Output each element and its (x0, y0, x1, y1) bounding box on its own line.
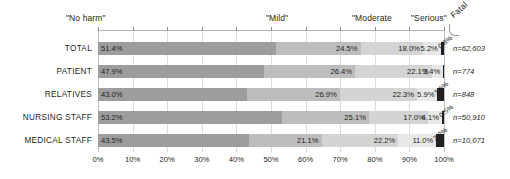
x-axis-tick-label: 20% (160, 155, 175, 164)
bar-segment: 22.2% (322, 134, 399, 147)
bar-segment: 18.0% (361, 42, 423, 55)
row-label-patient: PATIENT (0, 65, 92, 78)
bar-value-label: 22.2% (374, 134, 396, 147)
sample-size-label: n=62,603 (453, 42, 485, 55)
sample-size-label: n=10,071 (453, 134, 485, 147)
bar-segment: 25.1% (282, 111, 369, 124)
bar-value-label: 18.0% (398, 42, 420, 55)
bar-segment: 22.1% (355, 65, 431, 78)
x-axis-tick (202, 27, 203, 31)
stacked-bar: 53.2%25.1%17.0%4.1%0.5% (98, 111, 444, 124)
bar-value-label: 51.4% (101, 42, 123, 55)
x-axis-tick-label: 90% (402, 155, 417, 164)
x-axis-tick-label: 70% (333, 155, 348, 164)
legend-label-moderate: "Moderate (352, 13, 392, 23)
chart-row: MEDICAL STAFF43.5%21.1%22.2%11.0%2.2%n=1… (98, 134, 444, 147)
x-axis-tick-label: 60% (298, 155, 313, 164)
bar-value-label: 11.0% (412, 134, 433, 147)
bar-segment: 3.4% (432, 65, 444, 78)
bar-value-label: 53.2% (101, 111, 123, 124)
sample-size-label: n=50,910 (453, 111, 485, 124)
bar-value-label: 26.9% (315, 88, 337, 101)
x-axis-tick-label: 50% (263, 155, 278, 164)
x-axis-tick (236, 27, 237, 31)
x-axis-tick-label: 30% (194, 155, 209, 164)
bar-segment: 0.8% (441, 42, 444, 55)
x-axis-tick-label: 10% (125, 155, 140, 164)
bar-segment: 22.3% (340, 88, 417, 101)
bar-value-label: 24.5% (336, 42, 358, 55)
row-label-total: TOTAL (0, 42, 92, 55)
bar-segment: 51.4% (98, 42, 276, 55)
bar-value-label: 3.4% (423, 65, 440, 78)
row-label-medical-staff: MEDICAL STAFF (0, 134, 92, 147)
chart-row: PATIENT47.9%26.4%22.1%3.4%n=774 (98, 65, 444, 78)
bar-value-label: 21.1% (297, 134, 319, 147)
stacked-bar: 51.4%24.5%18.0%5.2%0.8% (98, 42, 444, 55)
legend-label-serious: "Serious" (411, 13, 447, 23)
legend-label-fatal: Fatal (448, 0, 469, 20)
legend-label-no-harm: "No harm" (66, 13, 106, 23)
chart-row: TOTAL51.4%24.5%18.0%5.2%0.8%n=62,603 (98, 42, 444, 55)
stacked-bar-chart: "No harm" "Mild" "Moderate "Serious" Fat… (0, 0, 510, 179)
bar-segment: 21.1% (249, 134, 322, 147)
x-axis-tick (167, 27, 168, 31)
bar-segment: 26.4% (264, 65, 355, 78)
x-axis-tick (375, 27, 376, 31)
row-label-relatives: RELATIVES (0, 88, 92, 101)
x-axis-labels: 0%10%20%30%40%50%60%70%80%90%100% (98, 155, 444, 169)
x-axis-tick (98, 27, 99, 31)
x-axis-tick-label: 100% (434, 155, 453, 164)
bar-segment: 43.0% (98, 88, 247, 101)
bar-segment: 53.2% (98, 111, 282, 124)
x-axis-tick (409, 27, 410, 31)
x-axis-tick (340, 27, 341, 31)
bar-segment (443, 65, 444, 78)
bar-segment: 43.5% (98, 134, 249, 147)
bar-segment: 1.6% (437, 88, 444, 101)
x-axis-tick-label: 40% (229, 155, 244, 164)
stacked-bar: 47.9%26.4%22.1%3.4% (98, 65, 444, 78)
row-label-nursing-staff: NURSING STAFF (0, 111, 92, 124)
plot-area: TOTAL51.4%24.5%18.0%5.2%0.8%n=62,603PATI… (98, 30, 444, 152)
bar-value-label: 43.5% (101, 134, 123, 147)
chart-row: RELATIVES43.0%26.9%22.3%5.9%1.6%n=848 (98, 88, 444, 101)
bar-segment: 2.2% (436, 134, 444, 147)
stacked-bar: 43.0%26.9%22.3%5.9%1.6% (98, 88, 444, 101)
bar-value-label: 22.3% (392, 88, 414, 101)
stacked-bar: 43.5%21.1%22.2%11.0%2.2% (98, 134, 444, 147)
sample-size-label: n=774 (453, 65, 474, 78)
bar-value-label: 26.4% (331, 65, 353, 78)
chart-row: NURSING STAFF53.2%25.1%17.0%4.1%0.5%n=50… (98, 111, 444, 124)
legend-label-mild: "Mild" (266, 13, 288, 23)
bar-value-label: 25.1% (344, 111, 366, 124)
bar-segment: 24.5% (276, 42, 361, 55)
bar-segment: 0.5% (442, 111, 444, 124)
x-axis-tick-label: 0% (93, 155, 104, 164)
sample-size-label: n=848 (453, 88, 474, 101)
bar-value-label: 43.0% (101, 88, 123, 101)
x-axis-tick (271, 27, 272, 31)
bar-value-label: 47.9% (101, 65, 123, 78)
fatal-leader-line (449, 24, 459, 36)
bar-segment: 17.0% (369, 111, 428, 124)
x-axis-tick (306, 27, 307, 31)
x-axis-tick-label: 80% (367, 155, 382, 164)
x-axis-tick (444, 27, 445, 31)
x-axis-tick (133, 27, 134, 31)
bar-segment: 47.9% (98, 65, 264, 78)
bar-segment: 26.9% (247, 88, 340, 101)
